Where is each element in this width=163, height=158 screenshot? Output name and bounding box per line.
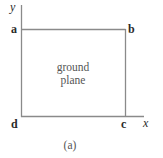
region-label-plane: plane — [61, 74, 86, 87]
ground-plane-diagram: y x a b c d ground plane (a) — [0, 0, 163, 158]
x-axis-label: x — [142, 116, 149, 130]
caption: (a) — [64, 139, 77, 152]
corner-label-a: a — [11, 22, 17, 36]
corner-label-b: b — [128, 22, 135, 36]
corner-label-d: d — [11, 117, 18, 131]
y-axis-label: y — [9, 0, 16, 14]
corner-label-c: c — [121, 117, 127, 131]
region-label-ground: ground — [57, 61, 90, 74]
